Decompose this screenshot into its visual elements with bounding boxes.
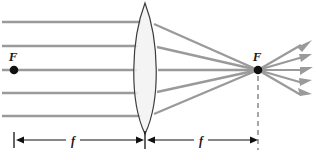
focal-point-right-label: F: [252, 49, 262, 64]
diverging-ray-arrowheads: [297, 40, 313, 96]
refracted-ray-2: [157, 47, 258, 70]
diverging-ray-2: [258, 57, 303, 70]
diverging-ray-1: [258, 45, 301, 70]
focal-point-left-dot: [10, 66, 19, 75]
refracted-ray-4: [157, 70, 258, 92]
measure-right-arrow-start: [147, 137, 155, 144]
arrowhead-5: [298, 88, 312, 96]
arrowhead-2: [299, 54, 312, 62]
focal-point-right-dot: [254, 66, 263, 75]
refracted-converging-rays: [154, 24, 258, 114]
arrowhead-4: [299, 78, 312, 86]
arrowhead-1: [297, 40, 312, 52]
diverging-rays-past-focus: [258, 45, 304, 95]
optics-ray-diagram: F F f f: [0, 0, 316, 164]
focal-point-left-label: F: [8, 49, 18, 64]
measure-left-arrow-start: [16, 137, 24, 144]
incoming-parallel-rays: [2, 22, 141, 116]
measure-left-arrow-end: [136, 137, 144, 144]
ray-diagram-canvas: F F f f: [0, 0, 316, 164]
refracted-ray-5: [154, 70, 258, 114]
focal-length-left-measure: [14, 132, 141, 148]
measure-right-arrow-end: [250, 137, 258, 144]
refracted-ray-1: [154, 24, 258, 70]
focal-length-left-label: f: [71, 134, 76, 148]
diverging-ray-5: [258, 70, 301, 95]
arrowhead-3: [300, 67, 313, 75]
diverging-ray-4: [258, 70, 303, 83]
focal-length-right-label: f: [199, 134, 204, 148]
